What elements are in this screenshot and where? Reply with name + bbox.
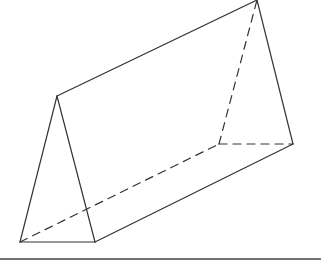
- visible-edges: [20, 0, 293, 242]
- edge-CF: [57, 0, 257, 96]
- edge-FE: [257, 0, 293, 144]
- edge-BE: [95, 144, 293, 242]
- edge-BC: [57, 96, 95, 242]
- edge-AC: [20, 96, 57, 242]
- prism-diagram: [0, 0, 321, 273]
- hidden-edge-DF: [219, 0, 257, 144]
- hidden-edges: [20, 0, 293, 242]
- hidden-edge-AD: [20, 144, 219, 242]
